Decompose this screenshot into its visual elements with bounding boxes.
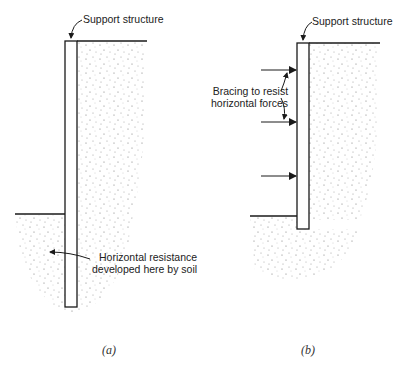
label-support-structure-b: Support structure <box>312 15 393 27</box>
support-wall-b <box>297 43 309 229</box>
retained-soil-b <box>309 43 378 220</box>
label-soil-line2: developed here by soil <box>92 263 197 275</box>
diagram-canvas <box>0 0 397 365</box>
label-soil-line1: Horizontal resistance <box>92 251 197 263</box>
label-soil-resistance-a: Horizontal resistance developed here by … <box>92 251 197 275</box>
caption-a: (a) <box>102 343 116 358</box>
label-bracing-b: Bracing to resist horizontal forces <box>211 85 288 109</box>
label-bracing-line1: Bracing to resist <box>211 85 288 97</box>
leader-top-b <box>303 22 312 40</box>
label-bracing-line2: horizontal forces <box>211 97 288 109</box>
caption-b: (b) <box>301 343 315 358</box>
retained-soil-a <box>77 41 145 230</box>
leader-top-a <box>71 20 82 38</box>
panel-b <box>250 22 380 279</box>
label-support-structure-a: Support structure <box>83 13 164 25</box>
support-wall-a <box>65 41 77 307</box>
